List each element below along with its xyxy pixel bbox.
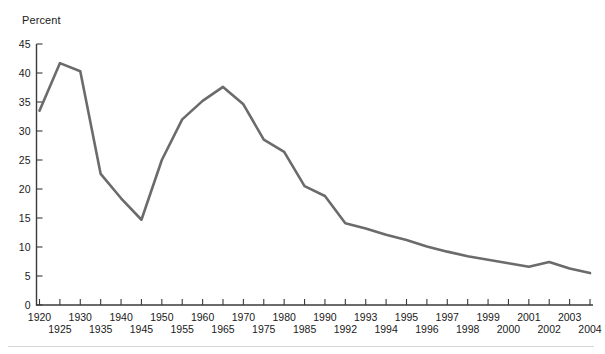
x-tick-label: 1975 xyxy=(252,323,276,335)
x-tick-label: 1970 xyxy=(232,311,256,323)
x-axis xyxy=(36,299,593,305)
y-tick-label: 15 xyxy=(19,212,31,224)
x-tick-label: 1999 xyxy=(476,311,500,323)
x-tick-label: 1993 xyxy=(354,311,378,323)
x-tick-label: 2001 xyxy=(517,311,541,323)
x-tick-label: 1960 xyxy=(191,311,215,323)
x-tick-label: 1930 xyxy=(69,311,93,323)
x-tick-label: 1990 xyxy=(313,311,337,323)
x-tick-label: 1935 xyxy=(89,323,113,335)
data-series xyxy=(40,63,591,273)
x-tick-label: 1997 xyxy=(436,311,460,323)
y-tick-label: 20 xyxy=(19,183,31,195)
y-tick-label: 0 xyxy=(25,299,31,311)
x-tick-label: 1955 xyxy=(171,323,195,335)
x-tick-label: 1945 xyxy=(130,323,154,335)
x-axis-labels: 1920193019401950196019701980199019931995… xyxy=(28,311,602,335)
y-tick-label: 45 xyxy=(19,38,31,50)
y-tick-label: 5 xyxy=(25,270,31,282)
x-tick-label: 1950 xyxy=(150,311,174,323)
bottom-divider xyxy=(8,346,594,347)
x-tick-label: 2000 xyxy=(497,323,521,335)
x-tick-label: 1992 xyxy=(334,323,358,335)
x-tick-label: 2002 xyxy=(538,323,562,335)
y-tick-label: 25 xyxy=(19,154,31,166)
y-tick-label: 30 xyxy=(19,125,31,137)
x-tick-label: 1920 xyxy=(28,311,52,323)
y-axis: 051015202530354045 xyxy=(19,38,43,311)
x-tick-label: 1994 xyxy=(374,323,398,335)
x-tick-label: 1985 xyxy=(293,323,317,335)
x-tick-label: 2004 xyxy=(578,323,602,335)
x-tick-label: 2003 xyxy=(558,311,582,323)
series-line-percent xyxy=(40,63,591,273)
y-tick-label: 40 xyxy=(19,67,31,79)
x-tick-label: 1980 xyxy=(272,311,296,323)
x-tick-label: 1965 xyxy=(211,323,235,335)
x-tick-label: 1996 xyxy=(415,323,439,335)
y-tick-label: 35 xyxy=(19,96,31,108)
x-tick-label: 1995 xyxy=(395,311,419,323)
y-tick-label: 10 xyxy=(19,241,31,253)
x-tick-label: 1940 xyxy=(109,311,133,323)
chart-container: Percent 051015202530354045 1920193019401… xyxy=(0,0,605,354)
x-tick-label: 1998 xyxy=(456,323,480,335)
line-chart-plot: 051015202530354045 192019301940195019601… xyxy=(0,0,605,354)
x-tick-label: 1925 xyxy=(48,323,72,335)
